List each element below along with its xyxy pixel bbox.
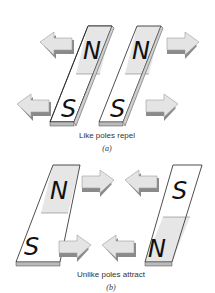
pole-label-south: S xyxy=(110,95,125,123)
sublabel-a: (a) xyxy=(102,144,112,153)
arrow-right-icon xyxy=(146,94,178,121)
pole-label-north: N xyxy=(132,37,150,65)
caption-unlike-poles: Unlike poles attract xyxy=(77,270,146,279)
pole-label-north: N xyxy=(83,37,101,65)
pole-label-north: N xyxy=(50,177,68,205)
panel-a: N S N S Like poles repel (a) xyxy=(17,26,199,153)
pole-label-north: N xyxy=(148,235,166,263)
caption-like-poles: Like poles repel xyxy=(79,131,135,140)
arrow-left-icon xyxy=(102,235,136,262)
magnet-poles-diagram: N S N S Like poles repel (a) N S xyxy=(0,0,215,293)
panel-b: N S S N Unlike poles attract (b) xyxy=(16,165,202,292)
arrow-right-icon xyxy=(82,170,114,197)
arrow-left-icon xyxy=(40,32,74,59)
pole-label-south: S xyxy=(24,233,39,261)
pole-label-south: S xyxy=(61,95,76,123)
sublabel-b: (b) xyxy=(106,283,116,292)
pole-label-south: S xyxy=(172,177,187,205)
arrow-right-icon xyxy=(59,235,91,262)
arrow-left-icon xyxy=(125,170,159,197)
arrow-right-icon xyxy=(167,32,199,59)
arrow-left-icon xyxy=(17,94,51,121)
